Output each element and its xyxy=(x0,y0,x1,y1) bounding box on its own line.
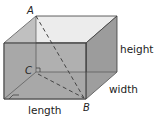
point-label-A: A xyxy=(26,5,34,16)
point-label-C: C xyxy=(25,65,32,76)
dimension-label-height: height xyxy=(120,43,153,55)
dimension-label-length: length xyxy=(28,104,61,116)
rectangular-prism-diagram: A C B height width length xyxy=(0,0,162,118)
point-label-B: B xyxy=(83,102,90,113)
dimension-label-width: width xyxy=(109,83,138,95)
